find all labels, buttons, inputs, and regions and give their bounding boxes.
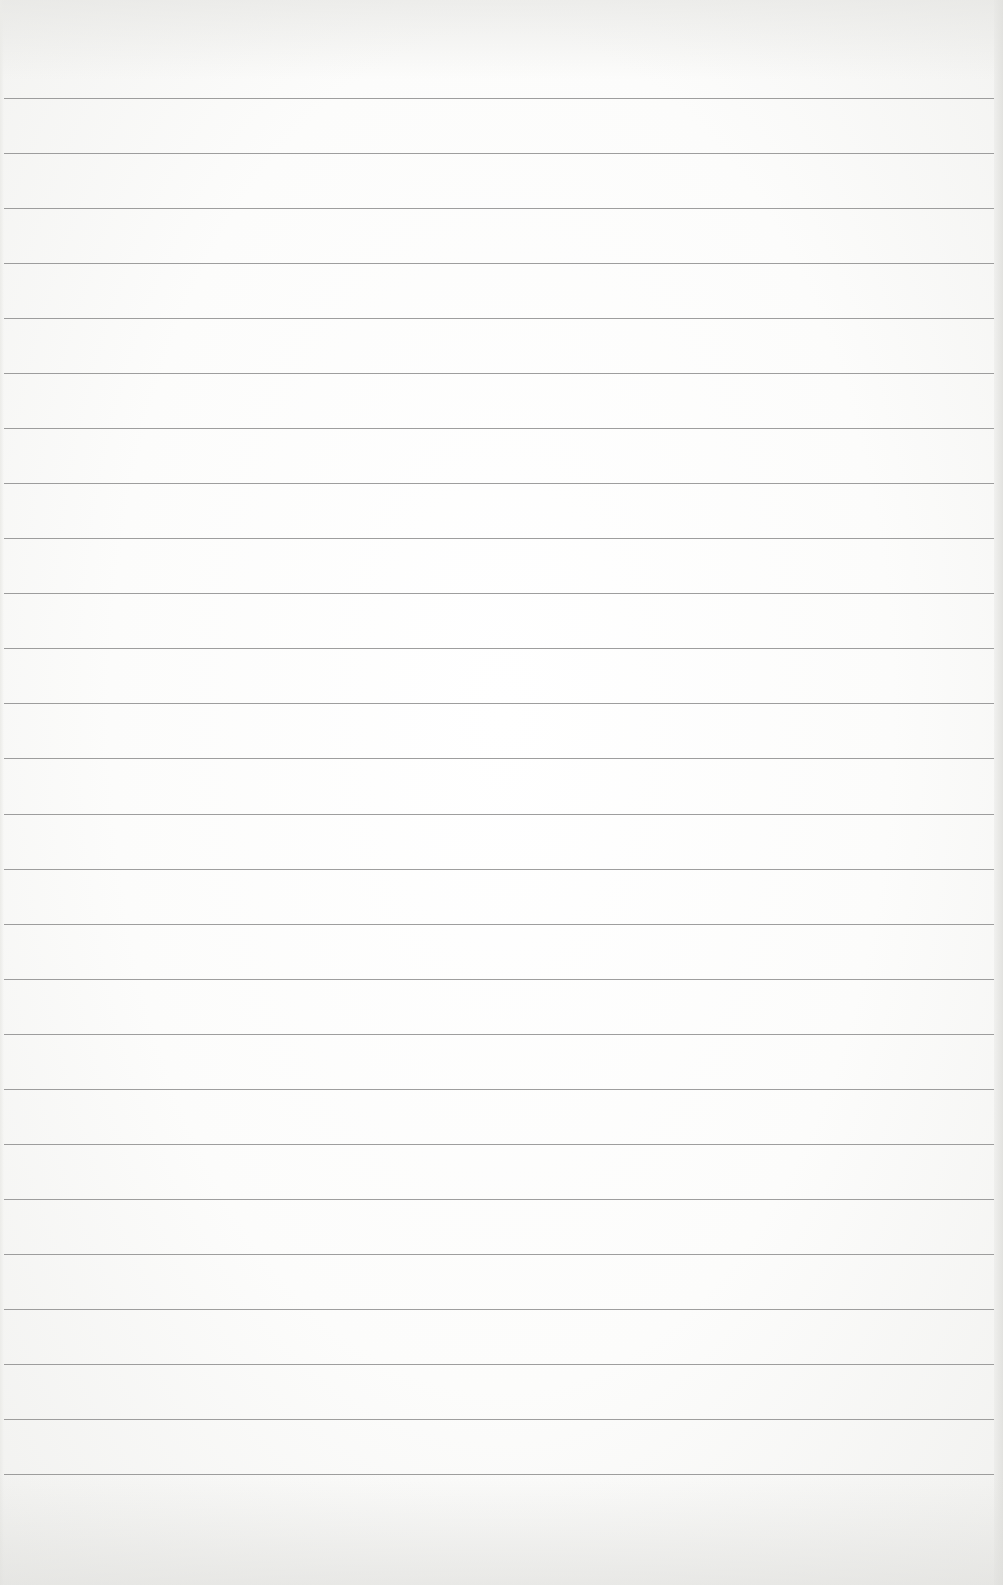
- ruled-line: [4, 1254, 994, 1255]
- ruled-line: [4, 208, 994, 209]
- ruled-line: [4, 318, 994, 319]
- ruled-line: [4, 373, 994, 374]
- ruled-line: [4, 98, 994, 99]
- ruled-line: [4, 1034, 994, 1035]
- ruled-line: [4, 1199, 994, 1200]
- ruled-line: [4, 538, 994, 539]
- ruled-line: [4, 593, 994, 594]
- ruled-line: [4, 428, 994, 429]
- ruled-line: [4, 1364, 994, 1365]
- paper-right-edge: [994, 0, 1003, 1585]
- ruled-line: [4, 869, 994, 870]
- ruled-line: [4, 1309, 994, 1310]
- ruled-line: [4, 1474, 994, 1475]
- ruled-line: [4, 648, 994, 649]
- ruled-line: [4, 758, 994, 759]
- ruled-line: [4, 483, 994, 484]
- ruled-line: [4, 979, 994, 980]
- ruled-line: [4, 1419, 994, 1420]
- ruled-line: [4, 153, 994, 154]
- ruled-line: [4, 703, 994, 704]
- paper-left-edge: [0, 0, 4, 1585]
- ruled-line: [4, 924, 994, 925]
- ruled-line: [4, 1089, 994, 1090]
- ruled-line: [4, 1144, 994, 1145]
- ruled-line: [4, 263, 994, 264]
- lined-paper-sheet: [0, 0, 1003, 1585]
- ruled-line: [4, 814, 994, 815]
